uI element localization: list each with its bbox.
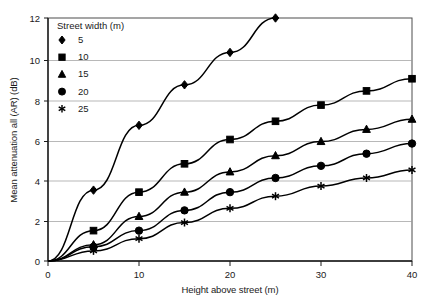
y-tick-label-10: 10 [29, 55, 40, 66]
datapoint-20m-x35 [363, 150, 370, 157]
datapoint-10m-x10 [136, 189, 143, 196]
legend-label-10m: 10 [78, 51, 89, 62]
chart-figure: 12 10 8 6 4 2 0 0 10 20 30 40 Height abo… [0, 0, 437, 305]
legend-marker-20m [58, 88, 65, 95]
y-axis-label: Mean attenuation all (AR) (dB) [8, 77, 19, 202]
datapoint-10m-x5 [90, 227, 97, 234]
datapoint-10m-x35 [363, 88, 370, 95]
datapoint-20m-x20 [226, 188, 233, 195]
x-tick-label-0: 0 [45, 269, 50, 280]
datapoint-10m-x15 [181, 161, 188, 168]
datapoint-20m-x10 [135, 227, 142, 234]
x-axis-label: Height above street (m) [182, 284, 279, 295]
datapoint-10m-x40 [409, 75, 416, 82]
legend-label-15m: 15 [78, 68, 89, 79]
datapoint-10m-x25 [272, 118, 279, 125]
y-tick-label-4: 4 [35, 176, 40, 187]
legend-title: Street width (m) [57, 20, 124, 31]
y-tick-label-12: 12 [29, 13, 40, 24]
y-tick-label-6: 6 [35, 136, 40, 147]
legend-marker-10m [59, 54, 65, 60]
y-tick-label-8: 8 [35, 96, 40, 107]
y-tick-label-2: 2 [35, 216, 40, 227]
legend-label-25m: 25 [78, 103, 89, 114]
x-tick-label-10: 10 [134, 269, 145, 280]
datapoint-10m-x20 [227, 136, 234, 143]
legend-label-20m: 20 [78, 86, 89, 97]
chart-background [0, 0, 437, 305]
x-tick-label-20: 20 [225, 269, 236, 280]
datapoint-20m-x25 [272, 174, 279, 181]
datapoint-20m-x30 [317, 162, 324, 169]
legend-label-5m: 5 [78, 34, 83, 45]
y-tick-label-0: 0 [35, 256, 40, 267]
x-tick-label-40: 40 [407, 269, 418, 280]
datapoint-20m-x15 [181, 207, 188, 214]
x-tick-label-30: 30 [316, 269, 327, 280]
datapoint-10m-x30 [318, 102, 325, 109]
datapoint-20m-x40 [408, 140, 415, 147]
